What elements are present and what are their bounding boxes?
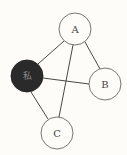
- node-a-label: A: [70, 24, 79, 35]
- node-b-label: B: [101, 79, 108, 90]
- node-me: 私: [11, 60, 43, 92]
- edge-me-c: [31, 92, 48, 119]
- network-diagram: A B 私 C: [0, 0, 127, 155]
- node-c-label: C: [53, 128, 61, 139]
- edge-a-b: [85, 42, 100, 69]
- node-a: A: [59, 13, 91, 45]
- edge-a-c: [59, 45, 73, 117]
- node-me-label: 私: [23, 71, 32, 81]
- edge-me-a: [38, 41, 64, 64]
- node-b: B: [89, 68, 121, 100]
- node-c: C: [41, 117, 73, 149]
